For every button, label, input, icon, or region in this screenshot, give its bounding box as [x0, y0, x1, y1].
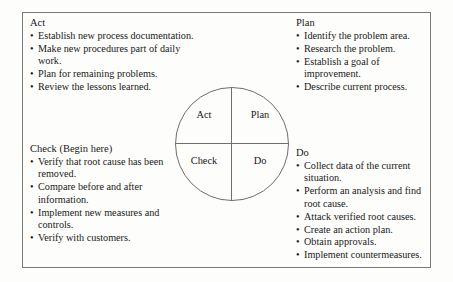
do-bullet-list: •Collect data of the current situation. …	[296, 160, 438, 262]
list-item: •Compare before and after information.	[30, 181, 190, 206]
act-text-block: Act •Establish new process documentation…	[30, 16, 198, 94]
bullet-icon: •	[296, 249, 300, 261]
quadrant-label-act: Act	[177, 109, 231, 121]
plan-text-block: Plan •Identify the problem area. •Resear…	[296, 16, 436, 94]
bullet-icon: •	[296, 30, 300, 42]
list-item: •Obtain approvals.	[296, 236, 438, 248]
list-item: •Create an action plan.	[296, 224, 438, 236]
list-item-text: Describe current process.	[304, 81, 407, 92]
list-item-text: Identify the problem area.	[304, 30, 410, 41]
list-item-text: Research the problem.	[304, 43, 395, 54]
vertical-divider-line	[231, 87, 232, 201]
bullet-icon: •	[30, 30, 34, 42]
list-item: •Implement new measures and controls.	[30, 207, 190, 232]
list-item: •Make new procedures part of daily work.	[30, 43, 198, 68]
list-item-text: Establish new process documentation.	[38, 30, 194, 41]
list-item: •Plan for remaining problems.	[30, 68, 198, 80]
list-item-text: Verify with customers.	[38, 232, 131, 243]
bullet-icon: •	[296, 236, 300, 248]
list-item-text: Create an action plan.	[304, 224, 393, 235]
bullet-icon: •	[296, 81, 300, 93]
act-heading: Act	[30, 16, 198, 29]
list-item: •Establish a goal of improvement.	[296, 56, 436, 81]
list-item-text: Obtain approvals.	[304, 236, 376, 247]
list-item: •Verify with customers.	[30, 232, 190, 244]
list-item: •Perform an analysis and find root cause…	[296, 185, 438, 210]
list-item-text: Verify that root cause has been removed.	[38, 156, 163, 179]
plan-bullet-list: •Identify the problem area. •Research th…	[296, 30, 436, 94]
do-heading: Do	[296, 146, 438, 159]
list-item-text: Implement new measures and controls.	[38, 207, 159, 230]
list-item: •Attack verified root causes.	[296, 211, 438, 223]
list-item: •Collect data of the current situation.	[296, 160, 438, 185]
bullet-icon: •	[30, 81, 34, 93]
plan-heading: Plan	[296, 16, 436, 29]
bullet-icon: •	[296, 56, 300, 68]
quadrant-label-do: Do	[233, 155, 287, 167]
list-item-text: Implement countermeasures.	[304, 249, 422, 260]
list-item-text: Review the lessons learned.	[38, 81, 151, 92]
bullet-icon: •	[296, 43, 300, 55]
bullet-icon: •	[30, 207, 34, 219]
list-item-text: Perform an analysis and find root cause.	[304, 185, 421, 208]
bullet-icon: •	[30, 68, 34, 80]
list-item: •Describe current process.	[296, 81, 436, 93]
list-item-text: Make new procedures part of daily work.	[38, 43, 180, 66]
bullet-icon: •	[30, 181, 34, 193]
list-item: •Verify that root cause has been removed…	[30, 156, 190, 181]
bullet-icon: •	[296, 160, 300, 172]
quadrant-label-plan: Plan	[233, 109, 287, 121]
list-item-text: Plan for remaining problems.	[38, 68, 157, 79]
do-text-block: Do •Collect data of the current situatio…	[296, 146, 438, 262]
pdca-cycle-figure: Act •Establish new process documentation…	[0, 0, 453, 282]
bullet-icon: •	[30, 156, 34, 168]
list-item: •Establish new process documentation.	[30, 30, 198, 42]
bullet-icon: •	[296, 224, 300, 236]
horizontal-divider-line	[175, 143, 289, 144]
act-bullet-list: •Establish new process documentation. •M…	[30, 30, 198, 94]
check-bullet-list: •Verify that root cause has been removed…	[30, 156, 190, 244]
quadrant-label-check: Check	[177, 155, 231, 167]
check-heading: Check (Begin here)	[30, 142, 190, 155]
list-item: •Review the lessons learned.	[30, 81, 198, 93]
bullet-icon: •	[296, 211, 300, 223]
list-item: •Research the problem.	[296, 43, 436, 55]
list-item-text: Establish a goal of improvement.	[304, 56, 380, 79]
list-item-text: Attack verified root causes.	[304, 211, 416, 222]
list-item: •Implement countermeasures.	[296, 249, 438, 261]
list-item: •Identify the problem area.	[296, 30, 436, 42]
bullet-icon: •	[30, 232, 34, 244]
bullet-icon: •	[296, 185, 300, 197]
list-item-text: Compare before and after information.	[38, 181, 142, 204]
bullet-icon: •	[30, 43, 34, 55]
pdca-circle-diagram: Act Plan Check Do	[175, 87, 289, 201]
list-item-text: Collect data of the current situation.	[304, 160, 410, 183]
check-text-block: Check (Begin here) •Verify that root cau…	[30, 142, 190, 245]
circle-outline	[175, 87, 289, 201]
